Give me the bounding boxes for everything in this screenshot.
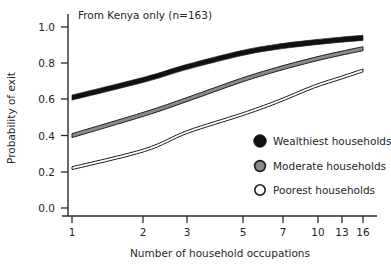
y-tick-label: 0.8 (38, 57, 55, 69)
legend-label: Wealthiest households (273, 135, 391, 147)
y-tick-label: 1.0 (38, 21, 55, 33)
y-tick-label: 0.2 (38, 166, 55, 178)
y-tick-label: 0.0 (38, 202, 55, 214)
x-tick-label: 5 (240, 226, 247, 238)
filled-circle-gray-icon (255, 161, 266, 172)
y-tick-label: 0.6 (38, 93, 55, 105)
panel-title: From Kenya only (n=163) (78, 9, 212, 21)
x-tick-label: 10 (311, 226, 324, 238)
x-axis-title: Number of household occupations (130, 247, 310, 259)
legend-label: Poorest households (273, 184, 375, 196)
y-tick-label: 0.4 (38, 130, 55, 142)
chart-legend: Wealthiest households Moderate household… (254, 135, 391, 196)
x-tick-label: 3 (184, 226, 191, 238)
filled-circle-black-icon (254, 135, 266, 147)
legend-item-poorest: Poorest households (255, 184, 375, 196)
y-axis-title: Probability of exit (5, 72, 17, 164)
x-tick-label: 16 (356, 226, 370, 238)
hollow-circle-white-icon (255, 185, 265, 195)
x-tick-label: 2 (140, 226, 147, 238)
legend-item-wealthiest: Wealthiest households (254, 135, 391, 147)
legend-label: Moderate households (273, 160, 386, 172)
legend-item-moderate: Moderate households (255, 160, 386, 172)
chart-figure: From Kenya only (n=163) 0.0 0.2 0.4 0.6 … (0, 0, 391, 266)
x-tick-label: 1 (69, 226, 76, 238)
probability-of-exit-line-chart: From Kenya only (n=163) 0.0 0.2 0.4 0.6 … (0, 0, 391, 266)
x-tick-label: 7 (280, 226, 287, 238)
x-tick-label: 13 (335, 226, 348, 238)
